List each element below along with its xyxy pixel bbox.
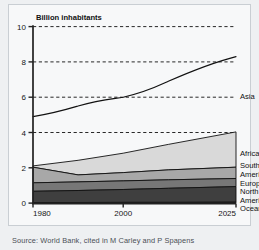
ytick-label-8: 8 (22, 58, 27, 67)
y-axis-tick-labels: 10 8 6 4 2 0 (17, 23, 26, 209)
population-projection-chart: 10 8 6 4 2 0 1980 2000 2025 Billion inha… (0, 0, 259, 250)
chart-area: 10 8 6 4 2 0 1980 2000 2025 Billion inha… (0, 0, 259, 250)
series-label-africa: Africa (240, 149, 259, 158)
series-labels: Asia Africa South America Europe North A… (240, 92, 259, 213)
series-label-oceania: Oceania (240, 204, 259, 213)
ytick-label-4: 4 (22, 129, 27, 138)
ytick-label-0: 0 (22, 199, 27, 208)
series-label-south-america-1: South (240, 161, 259, 170)
figure-caption: Source: World Bank, cited in M Carley an… (12, 236, 258, 245)
xtick-label-2025: 2025 (218, 209, 236, 218)
ytick-label-10: 10 (17, 23, 26, 32)
y-axis-title: Billion inhabitants (36, 13, 102, 22)
series-label-south-america-2: America (240, 170, 259, 179)
ytick-label-2: 2 (22, 164, 27, 173)
ytick-label-6: 6 (22, 93, 27, 102)
x-axis-tick-labels: 1980 2000 2025 (33, 209, 237, 218)
figure-container: 10 8 6 4 2 0 1980 2000 2025 Billion inha… (0, 0, 259, 250)
xtick-label-1980: 1980 (33, 209, 51, 218)
line-asia (33, 57, 236, 117)
xtick-label-2000: 2000 (114, 209, 132, 218)
series-label-asia: Asia (240, 92, 256, 101)
stacked-areas (33, 132, 236, 203)
